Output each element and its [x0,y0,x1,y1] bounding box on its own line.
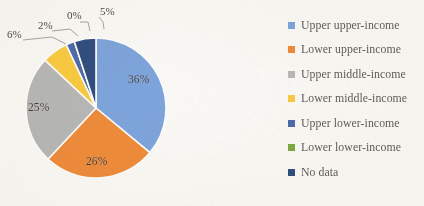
legend-item-label: Upper upper-income [301,18,400,33]
legend-item-lower-upper-income[interactable]: Lower upper-income [288,38,424,63]
legend-item-upper-middle-income[interactable]: Upper middle-income [288,62,424,87]
legend-swatch-icon [288,95,295,102]
slice-label-upper-upper-income: 36% [128,73,149,85]
legend-swatch-icon [288,144,295,151]
callout-label-no-data: 5% [100,5,115,17]
chart-legend: Upper upper-income Lower upper-income Up… [288,13,424,185]
pie-chart: 36% 26% 25% 6% 2% 0% 5% [0,0,278,206]
legend-item-label: Lower lower-income [301,140,401,155]
legend-item-upper-upper-income[interactable]: Upper upper-income [288,13,424,38]
legend-item-no-data[interactable]: No data [288,160,424,185]
callout-label-lower-lower-income: 0% [67,9,82,21]
legend-swatch-icon [288,22,295,29]
legend-item-label: Upper middle-income [301,67,406,82]
legend-item-label: Lower middle-income [301,91,407,106]
legend-item-lower-middle-income[interactable]: Lower middle-income [288,87,424,112]
legend-swatch-icon [288,120,295,127]
legend-item-label: No data [301,165,338,180]
slice-label-upper-middle-income: 25% [28,101,49,113]
legend-item-upper-lower-income[interactable]: Upper lower-income [288,111,424,136]
legend-swatch-icon [288,169,295,176]
legend-swatch-icon [288,46,295,53]
chart-page: 36% 26% 25% 6% 2% 0% 5% Upper upper-inco… [0,0,424,206]
legend-swatch-icon [288,71,295,78]
slice-label-lower-upper-income: 26% [86,155,107,167]
callout-label-lower-middle-income: 6% [7,28,22,40]
legend-item-lower-lower-income[interactable]: Lower lower-income [288,136,424,161]
callout-label-upper-lower-income: 2% [38,19,53,31]
legend-item-label: Upper lower-income [301,116,400,131]
legend-item-label: Lower upper-income [301,42,401,57]
